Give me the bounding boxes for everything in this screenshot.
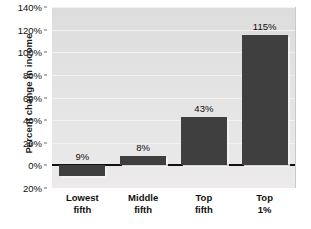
y-tick-mark <box>44 165 47 166</box>
x-category-line: Lowest <box>66 192 99 204</box>
x-category-line: Top <box>256 192 273 204</box>
bar-value-label: 9% <box>76 151 90 162</box>
y-tick-label: 80% <box>23 69 42 80</box>
y-tick-label: 100% <box>18 47 42 58</box>
chart-figure: Percent change in income 140%120%100%80%… <box>0 0 311 229</box>
y-tick-label: 40% <box>23 115 42 126</box>
y-tick-mark <box>44 188 47 189</box>
y-tick-mark <box>44 120 47 121</box>
bar <box>120 156 166 165</box>
bar-value-label: 115% <box>253 21 277 32</box>
bar-value-label: 8% <box>136 142 150 153</box>
bar <box>242 35 288 165</box>
y-tick-label: 20% <box>23 183 42 194</box>
y-tick-label: 60% <box>23 92 42 103</box>
plot-area: 9%8%43%115% <box>52 7 296 188</box>
bar <box>181 117 227 166</box>
x-category-line: 1% <box>256 204 273 216</box>
x-category-line: fifth <box>128 204 158 216</box>
y-tick-mark <box>44 29 47 30</box>
x-category-line: fifth <box>195 204 213 216</box>
y-tick-label: 20% <box>23 137 42 148</box>
x-category-line: Middle <box>128 192 158 204</box>
bar-value-label: 43% <box>194 103 213 114</box>
y-tick-mark <box>44 7 47 8</box>
y-tick-label: 140% <box>18 2 42 13</box>
y-tick-mark <box>44 74 47 75</box>
y-tick-mark <box>44 52 47 53</box>
y-tick-label: 0% <box>28 160 42 171</box>
gridline <box>52 7 295 8</box>
x-category-label: Lowestfifth <box>66 192 99 215</box>
x-category-label: Top1% <box>256 192 273 215</box>
y-tick-mark <box>44 142 47 143</box>
x-category-line: Top <box>195 192 213 204</box>
x-category-label: Topfifth <box>195 192 213 215</box>
x-category-label: Middlefifth <box>128 192 158 215</box>
x-axis-category-labels: LowestfifthMiddlefifthTopfifthTop1% <box>52 192 295 224</box>
bar <box>59 165 105 175</box>
y-tick-mark <box>44 97 47 98</box>
x-category-line: fifth <box>66 204 99 216</box>
y-axis-tick-labels: 140%120%100%80%60%40%20%0%20% <box>0 0 50 195</box>
y-tick-label: 120% <box>18 24 42 35</box>
